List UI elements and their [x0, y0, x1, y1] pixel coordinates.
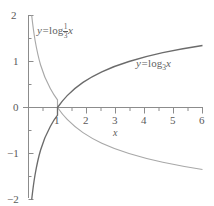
- label1-log: log: [49, 24, 63, 36]
- label2-log: log: [148, 57, 162, 69]
- log-graph-figure: 2 1 0 −1 −2 1 2 3 4 5 6 x y=log13x y=log…: [0, 0, 214, 206]
- x-tick-label-3: 3: [112, 115, 118, 126]
- label1-arg: x: [68, 24, 73, 36]
- y-tick-label-neg1: −1: [7, 148, 19, 159]
- label2-arg: x: [166, 57, 171, 69]
- y-tick-label-neg2: −2: [7, 194, 19, 205]
- curve-label-log-base-three: y=log3x: [136, 58, 171, 71]
- y-tick-label-0: 0: [13, 102, 19, 113]
- x-tick-label-5: 5: [170, 115, 176, 126]
- x-axis-label: x: [113, 128, 117, 138]
- x-tick-label-1: 1: [54, 115, 60, 126]
- plot-canvas: [0, 0, 214, 206]
- y-tick-label-2: 2: [11, 10, 17, 21]
- y-tick-label-1: 1: [13, 56, 19, 67]
- curve-label-log-base-one-third: y=log13x: [37, 23, 73, 39]
- x-tick-label-4: 4: [141, 115, 147, 126]
- x-tick-label-2: 2: [83, 115, 89, 126]
- x-tick-label-6: 6: [199, 115, 205, 126]
